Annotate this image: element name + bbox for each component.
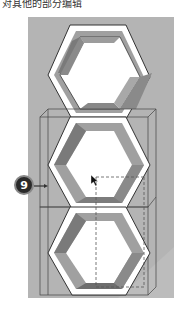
callout-arrow-icon <box>34 184 48 188</box>
hexagon-shelves-drawing <box>28 17 174 298</box>
hexagon-middle <box>48 117 150 209</box>
hexagon-top <box>48 25 152 119</box>
page-caption: 对其他的部分编辑 <box>2 0 82 10</box>
3d-model-viewport[interactable] <box>28 17 174 298</box>
hexagon-bottom <box>48 207 150 295</box>
step-callout-badge: 9 <box>14 175 34 195</box>
